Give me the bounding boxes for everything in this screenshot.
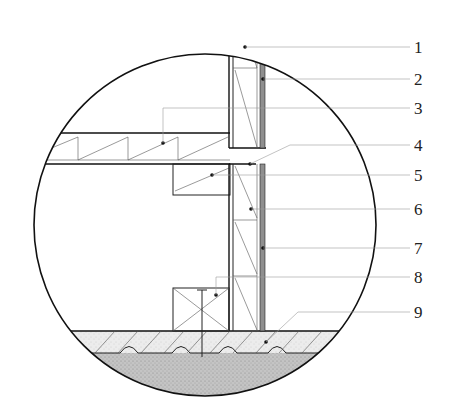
soil-fill bbox=[30, 352, 390, 412]
lower-wall bbox=[229, 164, 265, 331]
upper-cladding bbox=[260, 38, 265, 148]
floor-joist bbox=[30, 133, 230, 164]
ledger-beam bbox=[173, 164, 230, 195]
callout-label-4: 4 bbox=[414, 136, 423, 155]
upper-wall bbox=[229, 30, 266, 148]
callout-label-6: 6 bbox=[414, 200, 423, 219]
callout-label-2: 2 bbox=[414, 70, 423, 89]
callout-label-7: 7 bbox=[414, 239, 423, 258]
callout-label-1: 1 bbox=[414, 38, 423, 57]
callout-label-9: 9 bbox=[414, 303, 423, 322]
callout-label-8: 8 bbox=[414, 268, 423, 287]
callout-label-5: 5 bbox=[414, 166, 423, 185]
section-detail-diagram: 1 2 3 4 5 6 7 8 9 bbox=[0, 0, 451, 412]
callout-label-3: 3 bbox=[414, 99, 423, 118]
